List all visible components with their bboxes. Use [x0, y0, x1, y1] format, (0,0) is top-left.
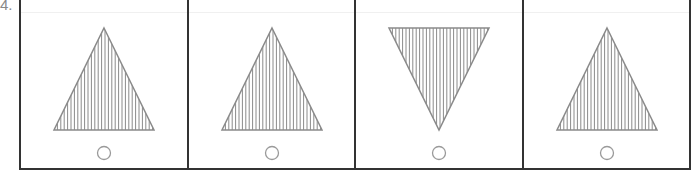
answer-circle-icon[interactable]	[265, 147, 278, 160]
option-figure-2	[189, 0, 355, 168]
answer-circle-icon[interactable]	[98, 147, 111, 160]
options-table	[19, 0, 691, 170]
option-cell-2[interactable]	[187, 0, 355, 168]
option-figure-4	[524, 0, 690, 168]
hatch-lines	[557, 28, 656, 130]
hatch-lines	[54, 28, 153, 130]
option-cell-1[interactable]	[21, 0, 187, 168]
option-cell-3[interactable]	[354, 0, 522, 168]
option-figure-3	[356, 0, 522, 168]
answer-circle-icon[interactable]	[433, 147, 446, 160]
option-cell-4[interactable]	[522, 0, 690, 168]
answer-circle-icon[interactable]	[600, 147, 613, 160]
option-figure-1	[21, 0, 187, 168]
question-number: 4.	[0, 0, 13, 13]
hatch-lines	[389, 28, 488, 130]
hatch-lines	[222, 28, 321, 130]
